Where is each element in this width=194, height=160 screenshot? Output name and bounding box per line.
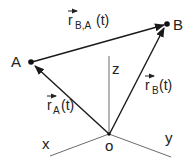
point-a-label: A <box>11 53 21 70</box>
x-axis-label: x <box>42 135 50 152</box>
point-b-label: B <box>173 16 183 33</box>
svg-text:A: A <box>53 105 60 116</box>
vector-r-b <box>110 28 164 133</box>
svg-text:(t): (t) <box>96 12 109 28</box>
origin-label: o <box>105 137 113 154</box>
x-axis <box>50 134 109 156</box>
point-b <box>164 21 170 27</box>
svg-text:B: B <box>152 85 159 96</box>
svg-text:r: r <box>68 12 73 28</box>
label-r-a: r A (t) <box>47 96 74 116</box>
origin-point <box>107 132 111 136</box>
label-r-b: r B (t) <box>145 76 172 96</box>
svg-text:r: r <box>145 77 150 93</box>
y-axis <box>109 134 171 157</box>
vector-diagram: z x y A B o r B,A (t) r A (t) r B (t) <box>0 0 194 160</box>
z-axis-label: z <box>112 60 120 77</box>
vector-r-ba <box>32 25 164 62</box>
point-a <box>28 59 34 65</box>
svg-text:r: r <box>47 97 52 113</box>
y-axis-label: y <box>165 129 173 146</box>
svg-text:B,A: B,A <box>75 20 91 31</box>
svg-text:(t): (t) <box>159 77 172 93</box>
svg-text:(t): (t) <box>61 97 74 113</box>
label-r-ba: r B,A (t) <box>68 11 109 31</box>
